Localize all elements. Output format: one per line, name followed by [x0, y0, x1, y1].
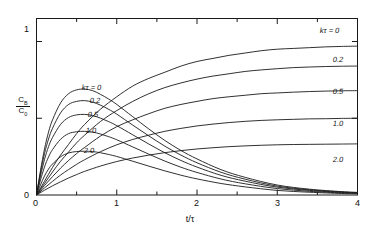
- axis-frame: [37, 19, 358, 196]
- curve-label-left-0: kτ = 0: [82, 83, 101, 92]
- curve-label-left-text-2: 0.5: [87, 110, 99, 119]
- figure-container: 1 0 0 1 2 3 4 CB C0 t/τ kτ = 00.20.51.02…: [0, 0, 380, 236]
- plot-canvas: [0, 0, 380, 236]
- curve-label-right-2: 0.5: [333, 87, 343, 96]
- y-tick-label-0: 0: [24, 190, 29, 200]
- curve-label-right-0: kτ = 0: [320, 26, 339, 35]
- y-tick-label-1: 1: [24, 24, 29, 34]
- curve-peaked-4: [37, 151, 358, 195]
- x-tick-label-4: 4: [355, 198, 360, 208]
- curve-label-left-3: 1.0: [86, 126, 96, 135]
- x-tick-label-0: 0: [33, 198, 38, 208]
- curve-label-left-1: 0.2: [90, 96, 100, 105]
- curve-family-peaked: [37, 89, 358, 195]
- curve-label-right-3: 1.0: [333, 119, 343, 128]
- curve-label-left-text-4: 2.0: [83, 146, 95, 155]
- curve-rising-3: [37, 118, 358, 195]
- curve-label-left-text-3: 1.0: [85, 126, 97, 135]
- curve-rising-2: [37, 91, 358, 195]
- curve-label-right-text-2: 0.5: [332, 87, 344, 96]
- curve-label-right-text-1: 0.2: [332, 55, 344, 64]
- x-axis-label: t/τ: [0, 214, 380, 224]
- curve-label-right-text-3: 1.0: [332, 119, 344, 128]
- x-tick-label-2: 2: [194, 198, 199, 208]
- curve-label-left-text-0: kτ = 0: [81, 83, 102, 92]
- curve-label-left-4: 2.0: [84, 146, 94, 155]
- x-tick-label-3: 3: [275, 198, 280, 208]
- y-axis-label-denominator: C0: [17, 107, 30, 117]
- curve-label-right-text-0: kτ = 0: [319, 26, 340, 35]
- x-tick-label-1: 1: [114, 198, 119, 208]
- curve-label-right-1: 0.2: [333, 55, 343, 64]
- axis-ticks: [37, 19, 358, 196]
- curve-label-right-text-4: 2.0: [332, 155, 344, 164]
- y-axis-label: CB C0: [10, 96, 36, 118]
- curve-label-left-2: 0.5: [88, 110, 98, 119]
- curve-label-left-text-1: 0.2: [89, 96, 101, 105]
- curve-label-right-4: 2.0: [333, 155, 343, 164]
